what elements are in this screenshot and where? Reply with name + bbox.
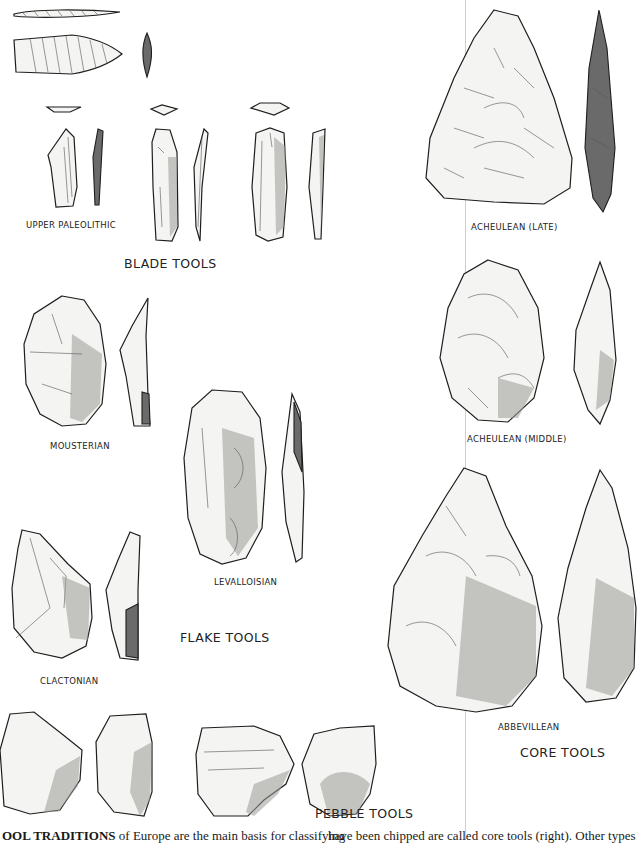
- blade-1-section-icon: [46, 104, 82, 114]
- label-acheulean-late: ACHEULEAN (LATE): [471, 222, 558, 232]
- pebble-tool-2-front-icon: [194, 724, 296, 818]
- pebble-tool-1-side-icon: [94, 712, 156, 818]
- label-abbevillean: ABBEVILLEAN: [498, 722, 559, 732]
- caption-left-column: OOL TRADITIONS of Europe are the main ba…: [2, 828, 345, 844]
- acheulean-middle-front-icon: [438, 258, 548, 426]
- blade-2-front-icon: [150, 127, 180, 243]
- blade-3-section-icon: [250, 102, 290, 116]
- upper-paleolithic-point-edge-view-icon: [12, 6, 122, 22]
- mousterian-side-icon: [118, 296, 152, 430]
- blade-1-front-icon: [46, 127, 78, 209]
- heading-blade-tools: BLADE TOOLS: [124, 256, 217, 271]
- heading-core-tools: CORE TOOLS: [520, 745, 605, 760]
- label-clactonian: CLACTONIAN: [40, 676, 98, 686]
- levalloisian-side-icon: [278, 392, 306, 564]
- acheulean-late-front-icon: [424, 8, 576, 206]
- levalloisian-front-icon: [182, 388, 268, 566]
- heading-pebble-tools: PEBBLE TOOLS: [315, 806, 413, 821]
- mousterian-front-icon: [22, 294, 108, 428]
- clactonian-side-icon: [104, 530, 144, 662]
- pebble-tool-2-side-icon: [300, 724, 378, 818]
- pebble-tool-1-front-icon: [0, 710, 86, 816]
- acheulean-late-side-icon: [583, 8, 617, 214]
- label-levalloisian: LEVALLOISIAN: [214, 577, 277, 587]
- blade-1-side-icon: [90, 127, 104, 207]
- clactonian-front-icon: [10, 528, 94, 660]
- abbevillean-side-icon: [556, 468, 638, 704]
- label-acheulean-middle: ACHEULEAN (MIDDLE): [467, 434, 567, 444]
- acheulean-middle-side-icon: [570, 260, 618, 426]
- caption-right-column: have been chipped are called core tools …: [328, 828, 636, 844]
- caption-bold-lead: OOL TRADITIONS: [2, 828, 116, 843]
- label-mousterian: MOUSTERIAN: [50, 441, 110, 451]
- upper-paleolithic-leaf-point-side-icon: [138, 32, 156, 78]
- heading-flake-tools: FLAKE TOOLS: [180, 630, 270, 645]
- blade-2-side-icon: [190, 127, 210, 243]
- caption-left-text: of Europe are the main basis for classif…: [116, 828, 346, 843]
- abbevillean-front-icon: [386, 466, 544, 714]
- blade-2-section-icon: [150, 104, 178, 116]
- blade-3-front-icon: [250, 127, 288, 243]
- blade-3-side-icon: [305, 127, 327, 243]
- label-upper-paleolithic: UPPER PALEOLITHIC: [26, 220, 116, 230]
- upper-paleolithic-leaf-point-icon: [12, 32, 124, 76]
